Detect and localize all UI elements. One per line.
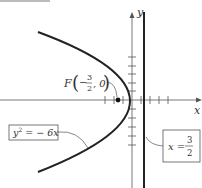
directrix-box: x = 3 2 xyxy=(163,130,200,162)
directrix-leader xyxy=(146,137,163,146)
svg-text:(: ( xyxy=(72,72,79,93)
svg-text:2: 2 xyxy=(187,148,192,158)
svg-text:F: F xyxy=(63,77,72,90)
svg-text:3: 3 xyxy=(187,135,192,145)
equation-box: y2 = − 6x xyxy=(9,125,59,140)
svg-text:3: 3 xyxy=(87,73,92,82)
parabola-diagram: x y F ( − 3 2 , 0 ) y2 = − 6x x = 3 2 xyxy=(0,0,202,188)
equation-leader xyxy=(58,132,88,148)
focus-point xyxy=(116,98,121,103)
focus-label: F ( − 3 2 , 0 ) xyxy=(63,72,110,93)
y-axis-label: y xyxy=(136,6,144,19)
parabola-curve xyxy=(38,32,130,172)
x-axis xyxy=(0,96,202,104)
x-axis-label: x xyxy=(194,104,201,117)
svg-text:2: 2 xyxy=(87,84,92,93)
svg-text:x =: x = xyxy=(168,141,185,152)
